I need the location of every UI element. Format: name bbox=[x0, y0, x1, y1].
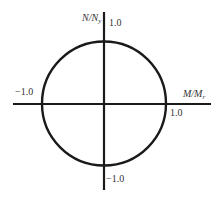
y-axis-label: N/Ny bbox=[81, 12, 102, 25]
x-axis-label: M/Mr bbox=[182, 88, 205, 101]
interaction-diagram: N/Ny 1.0 −1.0 M/Mr 1.0 −1.0 bbox=[0, 0, 220, 197]
x-axis-left-value: −1.0 bbox=[15, 86, 33, 97]
y-axis-bottom-value: −1.0 bbox=[106, 173, 124, 184]
x-axis-right-value: 1.0 bbox=[170, 107, 183, 118]
y-axis-top-value: 1.0 bbox=[109, 17, 122, 28]
